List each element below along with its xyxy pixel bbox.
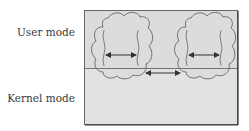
diagram-canvas [0,0,249,131]
